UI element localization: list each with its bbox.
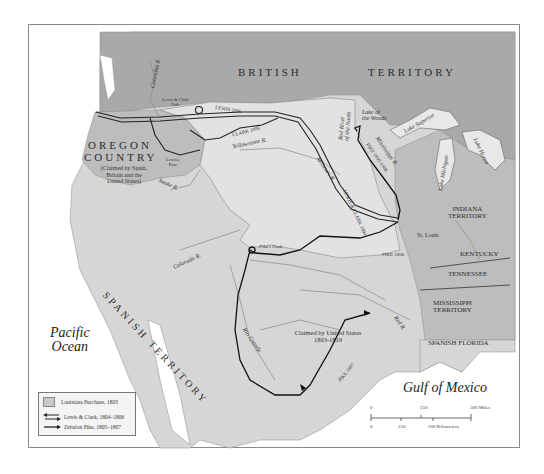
legend-pike: Zebulon Pike, 1805–1807 bbox=[43, 424, 121, 430]
label-lake-woods: Lake of the Woods bbox=[362, 109, 387, 121]
label-st-louis: St. Louis bbox=[417, 232, 439, 238]
double-arrow-icon bbox=[43, 413, 61, 421]
label-claimed-us: Claimed by United States 1803-1819 bbox=[288, 329, 368, 343]
label-kentucky: KENTUCKY bbox=[460, 251, 499, 258]
label-pikes-peak: Pike's Peak bbox=[259, 244, 282, 249]
label-territory: TERRITORY bbox=[368, 67, 456, 78]
label-pike-1806: PIKE 1806 bbox=[382, 252, 404, 257]
label-red-north: Red River of the North bbox=[337, 111, 351, 141]
label-pacific: Pacific Ocean bbox=[50, 326, 90, 354]
scale-line bbox=[370, 413, 482, 423]
label-lewis-pass: Lewis's Pass bbox=[166, 158, 180, 168]
gray-swatch-icon bbox=[43, 397, 55, 407]
label-oregon-note: (Claimed by Spain, Britain and the Unite… bbox=[94, 165, 154, 185]
label-spanish-florida: SPANISH FLORIDA bbox=[428, 340, 489, 347]
label-lewis-clark-path: Lewis & Clark Path bbox=[162, 98, 189, 108]
legend-lewis-clark: Lewis & Clark, 1804–1806 bbox=[43, 413, 124, 421]
label-british: BRITISH bbox=[238, 67, 302, 78]
scale-bar: 0 250 500 Miles 0 250 500 Kilometers bbox=[370, 405, 510, 435]
legend-louisiana: Louisiana Purchase, 1803 bbox=[43, 397, 121, 407]
label-country: COUNTRY bbox=[84, 152, 158, 163]
single-arrow-icon bbox=[43, 424, 61, 430]
label-mississippi: MISSISSIPPI TERRITORY bbox=[433, 300, 472, 315]
label-gulf: Gulf of Mexico bbox=[403, 381, 487, 395]
label-tennessee: TENNESSEE bbox=[448, 271, 487, 278]
label-indiana: INDIANA TERRITORY bbox=[448, 206, 487, 221]
label-oregon: OREGON bbox=[88, 140, 152, 151]
map-legend: Louisiana Purchase, 1803 Lewis & Clark, … bbox=[38, 392, 136, 436]
